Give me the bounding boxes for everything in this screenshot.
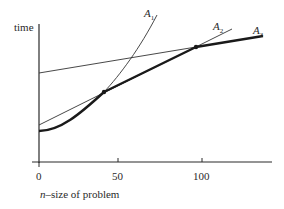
crossover-dot-2 [194,45,198,49]
series-label-a1-main: A [144,7,151,19]
series-label-a1: A1 [144,7,154,22]
chart-plot [0,0,284,209]
series-label-a2: A2 [213,20,223,35]
series-label-a2-sub: 2 [220,27,224,35]
series-label-a2-main: A [213,20,220,32]
series-a1-curve [104,15,157,92]
y-axis-label: time [14,21,34,33]
x-axis-label: n–size of problem [40,188,119,200]
x-tick-label-50: 50 [112,170,123,182]
series-label-a3-sub: 3 [260,31,264,39]
series-label-a3: A3 [253,24,263,39]
series-best-envelope [39,36,263,131]
series-a3-line [39,47,196,73]
x-tick-label-100: 100 [193,170,210,182]
crossover-dot-1 [102,90,106,94]
x-tick-label-0: 0 [36,170,42,182]
chart: time A1 A2 A3 0 50 100 n–size of problem [0,0,284,209]
x-axis-label-text: –size of problem [46,188,120,200]
series-label-a1-sub: 1 [151,14,155,22]
series-label-a3-main: A [253,24,260,36]
